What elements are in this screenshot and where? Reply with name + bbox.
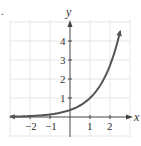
x-tick-label: −1: [45, 120, 57, 132]
y-tick-label: 4: [60, 35, 66, 47]
x-tick-label: 1: [87, 120, 93, 132]
x-tick-label: −2: [25, 120, 37, 132]
exponential-graph: . −2 −1 1 2 1 2 3 4 x y: [0, 0, 141, 146]
panel-marker: .: [1, 5, 4, 17]
y-tick-label: 2: [60, 73, 66, 85]
curve-right-arrow-icon: [116, 30, 121, 36]
y-tick-label: 3: [60, 54, 66, 66]
y-tick-label: 1: [60, 92, 66, 104]
y-axis-arrow-icon: [68, 20, 73, 27]
x-tick-label: 2: [107, 120, 113, 132]
exponential-curve: [11, 32, 120, 117]
x-axis-label: x: [133, 110, 140, 124]
y-axis-label: y: [65, 5, 72, 19]
